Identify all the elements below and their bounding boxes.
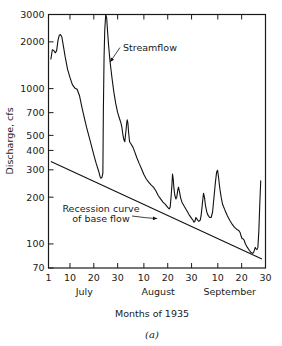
recession-annotation-label-line2: of base flow: [72, 213, 130, 224]
x-tick-label-5: 20: [162, 272, 174, 283]
y-axis-title: Discharge, cfs: [4, 107, 15, 174]
recession-arrowhead: [153, 216, 157, 220]
discharge-hydrograph-chart: 30002000100070050040030020010070 1102030…: [0, 0, 282, 346]
x-tick-label-0: 1: [45, 272, 51, 283]
y-tick-label-3000: 3000: [20, 9, 44, 20]
x-tick-label-1: 10: [64, 272, 76, 283]
month-label-august: August: [142, 286, 176, 297]
y-tick-label-700: 700: [26, 107, 44, 118]
x-tick-label-7: 10: [212, 272, 224, 283]
y-tick-label-500: 500: [26, 130, 44, 141]
hydrograph-figure: 30002000100070050040030020010070 1102030…: [0, 0, 282, 346]
x-tick-label-6: 30: [186, 272, 198, 283]
y-tick-label-1000: 1000: [20, 83, 44, 94]
x-tick-label-9: 30: [259, 272, 271, 283]
x-tick-label-4: 10: [138, 272, 150, 283]
y-tick-label-70: 70: [32, 262, 44, 273]
figure-caption: (a): [145, 329, 159, 340]
y-tick-label-2000: 2000: [20, 36, 44, 47]
x-axis-month-labels: JulyAugustSeptember: [75, 286, 256, 297]
streamflow-arrowhead: [110, 58, 114, 63]
y-tick-label-100: 100: [26, 238, 44, 249]
annotation-group: Streamflow Recession curve of base flow: [62, 42, 177, 224]
y-tick-label-400: 400: [26, 145, 44, 156]
month-label-september: September: [203, 286, 256, 297]
x-tick-label-2: 20: [88, 272, 100, 283]
streamflow-annotation-label: Streamflow: [123, 42, 177, 53]
x-axis-ticks: 1102030102030102030: [45, 15, 271, 284]
month-label-july: July: [75, 286, 93, 297]
x-tick-label-3: 30: [112, 272, 124, 283]
y-tick-label-200: 200: [26, 192, 44, 203]
x-tick-label-8: 20: [236, 272, 248, 283]
x-axis-title: Months of 1935: [115, 308, 189, 319]
y-tick-label-300: 300: [26, 164, 44, 175]
